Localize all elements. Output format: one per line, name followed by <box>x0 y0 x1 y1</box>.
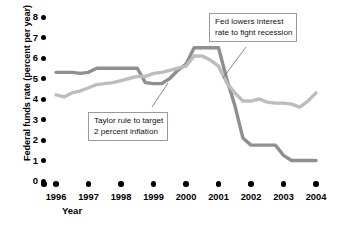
series-line-taylor-rule-rate <box>56 56 316 107</box>
callout-leader-taylor <box>152 83 168 107</box>
annotation-fed-line1: Fed lowers interest <box>215 17 292 28</box>
annotation-taylor-line2: 2 percent inflation <box>94 127 163 138</box>
callout-leader-fed <box>223 47 246 78</box>
chart-figure: Federal funds rate (percent per year) Ye… <box>0 0 337 232</box>
annotation-fed-line2: rate to fight recession <box>215 28 292 39</box>
annotation-taylor-rule: Taylor rule to target 2 percent inflatio… <box>88 112 168 141</box>
annotation-fed-lowers-rate: Fed lowers interest rate to fight recess… <box>209 13 297 42</box>
annotation-taylor-line1: Taylor rule to target <box>94 116 163 127</box>
